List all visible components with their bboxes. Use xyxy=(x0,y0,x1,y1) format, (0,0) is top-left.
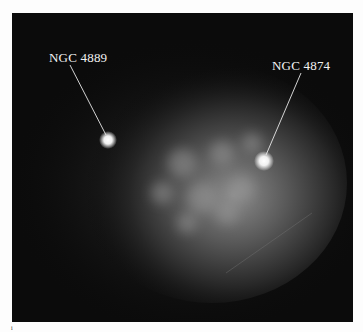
galaxy-cluster-image: NGC 4889 NGC 4874 xyxy=(12,13,353,322)
label-ngc-4889: NGC 4889 xyxy=(49,50,107,66)
label-ngc-4874: NGC 4874 xyxy=(272,58,330,74)
footer-mark: i xyxy=(11,325,13,331)
